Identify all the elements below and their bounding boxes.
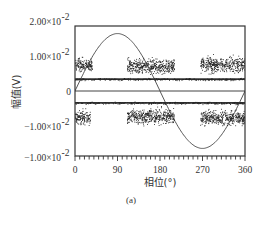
discharge-point bbox=[159, 109, 160, 110]
discharge-point bbox=[88, 116, 89, 117]
discharge-point bbox=[142, 63, 143, 64]
discharge-point bbox=[86, 66, 87, 67]
discharge-point bbox=[218, 124, 219, 125]
discharge-point bbox=[212, 73, 213, 74]
discharge-point bbox=[150, 60, 151, 61]
discharge-point bbox=[163, 117, 164, 118]
band-point bbox=[100, 80, 101, 81]
discharge-point bbox=[232, 71, 233, 72]
discharge-point bbox=[172, 69, 173, 70]
discharge-point bbox=[219, 115, 220, 116]
discharge-point bbox=[146, 71, 147, 72]
band-point bbox=[185, 104, 186, 105]
discharge-point bbox=[221, 123, 222, 124]
y-tick-mantissa: −1.00×10 bbox=[24, 153, 61, 163]
discharge-point bbox=[242, 61, 243, 62]
discharge-point bbox=[173, 119, 174, 120]
band-point bbox=[240, 79, 241, 80]
discharge-point bbox=[159, 118, 160, 119]
discharge-point bbox=[235, 66, 236, 67]
discharge-point bbox=[144, 110, 145, 111]
band-point bbox=[186, 79, 187, 80]
band-point bbox=[194, 79, 195, 80]
band-point bbox=[214, 103, 215, 104]
discharge-point bbox=[89, 119, 90, 120]
band-point bbox=[76, 103, 77, 104]
y-tick-mantissa: −1.00×10 bbox=[24, 122, 61, 132]
discharge-point bbox=[210, 59, 211, 60]
discharge-point bbox=[149, 114, 150, 115]
discharge-point bbox=[222, 111, 223, 112]
discharge-point bbox=[149, 71, 150, 72]
discharge-point bbox=[136, 67, 137, 68]
discharge-point bbox=[222, 120, 223, 121]
discharge-point bbox=[166, 109, 167, 110]
discharge-point bbox=[226, 65, 227, 66]
band-point bbox=[161, 102, 162, 103]
discharge-point bbox=[222, 69, 223, 70]
discharge-point bbox=[85, 69, 86, 70]
band-point bbox=[107, 79, 108, 80]
band-point bbox=[158, 79, 159, 80]
discharge-point bbox=[204, 71, 205, 72]
discharge-point bbox=[163, 70, 164, 71]
discharge-point bbox=[208, 110, 209, 111]
band-point bbox=[146, 102, 147, 103]
discharge-point bbox=[230, 118, 231, 119]
discharge-point bbox=[215, 113, 216, 114]
discharge-point bbox=[168, 122, 169, 123]
discharge-point bbox=[163, 67, 164, 68]
discharge-point bbox=[138, 67, 139, 68]
band-point bbox=[230, 78, 231, 79]
discharge-point bbox=[222, 65, 223, 66]
y-tick-mantissa: 1.00×10 bbox=[30, 52, 62, 62]
discharge-point bbox=[226, 115, 227, 116]
discharge-point bbox=[234, 73, 235, 74]
discharge-point bbox=[226, 59, 227, 60]
discharge-point bbox=[162, 65, 163, 66]
discharge-point bbox=[213, 113, 214, 114]
band-point bbox=[177, 102, 178, 103]
band-point bbox=[242, 79, 243, 80]
x-tick-label: 90 bbox=[113, 165, 123, 175]
band-point bbox=[230, 103, 231, 104]
discharge-point bbox=[90, 123, 91, 124]
discharge-point bbox=[89, 65, 90, 66]
discharge-point bbox=[223, 64, 224, 65]
band-point bbox=[119, 79, 120, 80]
discharge-point bbox=[150, 111, 151, 112]
discharge-point bbox=[166, 60, 167, 61]
discharge-point bbox=[201, 65, 202, 66]
discharge-point bbox=[218, 67, 219, 68]
discharge-point bbox=[130, 64, 131, 65]
discharge-point bbox=[220, 119, 221, 120]
discharge-point bbox=[218, 63, 219, 64]
discharge-point bbox=[223, 124, 224, 125]
discharge-point bbox=[161, 106, 162, 107]
discharge-point bbox=[160, 112, 161, 113]
discharge-point bbox=[231, 69, 232, 70]
discharge-point bbox=[215, 68, 216, 69]
discharge-point bbox=[210, 121, 211, 122]
discharge-point bbox=[216, 59, 217, 60]
band-point bbox=[103, 104, 104, 105]
x-tick-label: 0 bbox=[73, 165, 78, 175]
discharge-point bbox=[237, 65, 238, 66]
discharge-point bbox=[151, 120, 152, 121]
band-point bbox=[148, 103, 149, 104]
band-point bbox=[212, 80, 213, 81]
discharge-point bbox=[166, 121, 167, 122]
discharge-point bbox=[90, 112, 91, 113]
band-point bbox=[105, 102, 106, 103]
discharge-point bbox=[161, 67, 162, 68]
discharge-point bbox=[171, 68, 172, 69]
discharge-point bbox=[87, 120, 88, 121]
discharge-point bbox=[222, 67, 223, 68]
discharge-point bbox=[142, 110, 143, 111]
band-point bbox=[143, 79, 144, 80]
discharge-point bbox=[207, 64, 208, 65]
discharge-point bbox=[146, 63, 147, 64]
band-point bbox=[140, 80, 141, 81]
discharge-point bbox=[174, 116, 175, 117]
discharge-point bbox=[232, 120, 233, 121]
